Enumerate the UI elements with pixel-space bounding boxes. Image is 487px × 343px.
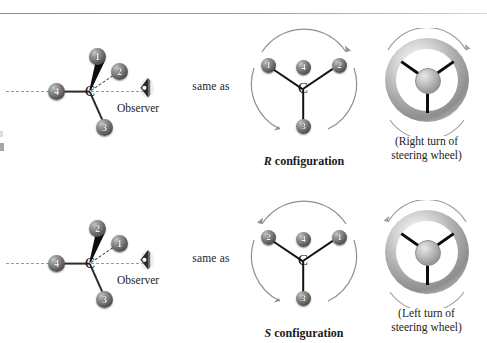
substituent-ball-1: 1 <box>111 235 128 252</box>
tetrahedral-model-s: C 4 2 1 3 Observer <box>0 186 180 343</box>
observer-label: Observer <box>117 102 159 114</box>
wheel-caption-s: (Left turn of steering wheel) <box>366 306 487 334</box>
eye-icon <box>137 248 154 272</box>
row-r-configuration: C 4 1 2 3 Observer same as <box>0 14 487 185</box>
same-as-connector-r: same as <box>180 14 242 185</box>
substituent-ball-2: 2 <box>111 63 128 80</box>
carbon-label: C <box>298 253 308 268</box>
same-as-label: same as <box>180 252 242 264</box>
observer-label: Observer <box>117 274 159 286</box>
flat-projection-r: C 1 4 2 3 R configuration <box>242 14 366 185</box>
wheel-hub <box>415 68 441 94</box>
steering-wheel-panel-s: (Left turn of steering wheel) <box>366 186 487 343</box>
steering-wheel-icon <box>385 38 469 122</box>
substituent-ball-4: 4 <box>48 255 65 272</box>
substituent-ball-3: 3 <box>96 119 113 136</box>
flat-projection-s: C 2 4 1 3 S configuration <box>242 186 366 343</box>
tetrahedral-model-r: C 4 1 2 3 Observer <box>0 14 180 185</box>
configuration-letter: R <box>264 154 272 168</box>
substituent-ball-3: 3 <box>96 291 113 308</box>
substituent-ball-1: 1 <box>89 48 106 65</box>
flat-ball-upper-right: 2 <box>332 58 347 73</box>
configuration-caption-s: S configuration <box>242 326 366 341</box>
flat-ball-center-top: 4 <box>296 232 311 247</box>
carbon-label: C <box>85 256 95 271</box>
flat-ball-upper-left: 1 <box>261 58 276 73</box>
wheel-caption-line1: (Right turn of <box>366 134 487 148</box>
flat-ball-upper-right: 1 <box>332 230 347 245</box>
steering-wheel-icon <box>385 210 469 294</box>
flat-ball-upper-left: 2 <box>261 230 276 245</box>
wheel-caption-r: (Right turn of steering wheel) <box>366 134 487 162</box>
wheel-caption-line2: steering wheel) <box>366 320 487 334</box>
configuration-word: configuration <box>271 326 343 340</box>
stereochemistry-figure: C 4 1 2 3 Observer same as <box>0 0 487 343</box>
carbon-label: C <box>85 84 95 99</box>
eye-icon <box>137 76 154 100</box>
configuration-caption-r: R configuration <box>242 154 366 169</box>
wheel-caption-line1: (Left turn of <box>366 306 487 320</box>
wheel-hub <box>415 240 441 266</box>
substituent-ball-4: 4 <box>48 83 65 100</box>
flat-ball-bottom: 3 <box>296 119 311 134</box>
same-as-label: same as <box>180 80 242 92</box>
steering-wheel-panel-r: (Right turn of steering wheel) <box>366 14 487 185</box>
flat-ball-center-top: 4 <box>296 60 311 75</box>
wheel-caption-line2: steering wheel) <box>366 148 487 162</box>
substituent-ball-2: 2 <box>89 220 106 237</box>
row-s-configuration: C 4 2 1 3 Observer same as <box>0 186 487 343</box>
carbon-label: C <box>298 81 308 96</box>
flat-ball-bottom: 3 <box>296 291 311 306</box>
configuration-word: configuration <box>272 154 344 168</box>
same-as-connector-s: same as <box>180 186 242 343</box>
